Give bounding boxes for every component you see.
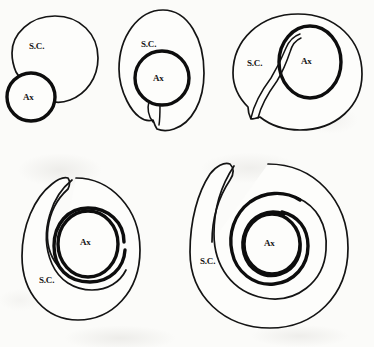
panel-3-axon-label: Ax [301,56,312,66]
panel-3-schwann-label: S.C. [247,58,262,68]
panel-4-drawing [12,170,152,330]
panel-2-axon-label: Ax [153,73,164,83]
panel-4-axon-label: Ax [80,237,91,247]
panel-3-drawing [222,8,372,140]
panel-grid: S.C. Ax S.C. Ax [0,0,374,347]
panel-2-schwann-label: S.C. [141,39,156,49]
panel-5-second-wrap: S.C. Ax [176,158,361,336]
panel-1-axon-label: Ax [23,92,34,102]
panel-3-mesaxon-elongation: S.C. Ax [222,8,372,140]
panel-4-first-wrap: S.C. Ax [12,170,152,330]
panel-1-apposition: S.C. Ax [0,8,110,133]
panel-2-engulfment: S.C. Ax [108,5,218,140]
panel-1-drawing [0,8,110,133]
panel-5-schwann-label: S.C. [200,256,215,266]
myelination-figure: S.C. Ax S.C. Ax [0,0,374,347]
panel-1-schwann-label: S.C. [29,41,44,51]
panel-5-axon-label: Ax [264,238,275,248]
panel-4-schwann-label: S.C. [39,275,54,285]
